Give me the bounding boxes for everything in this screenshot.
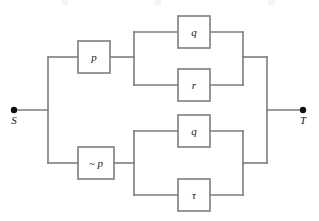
diagram-canvas: p q r ~ p q τ bbox=[0, 0, 319, 221]
block-q-upper[interactable]: q bbox=[178, 16, 210, 48]
source-terminal-label: S bbox=[11, 114, 17, 126]
block-group: p q r ~ p q τ bbox=[78, 16, 210, 211]
block-p-label: p bbox=[90, 51, 97, 63]
terminal-group: S T bbox=[11, 107, 307, 126]
block-not-p-label: ~ p bbox=[89, 157, 104, 169]
block-q-lower-label: q bbox=[191, 125, 197, 137]
sink-terminal-dot[interactable] bbox=[300, 107, 306, 113]
block-not-p[interactable]: ~ p bbox=[78, 147, 114, 179]
block-r-upper[interactable]: r bbox=[178, 69, 210, 101]
source-terminal-dot[interactable] bbox=[11, 107, 17, 113]
block-p[interactable]: p bbox=[78, 41, 110, 73]
wire-group bbox=[14, 32, 303, 195]
network-diagram-figure: p q r ~ p q τ bbox=[0, 0, 319, 221]
block-q-lower[interactable]: q bbox=[178, 115, 210, 147]
sink-terminal-label: T bbox=[300, 114, 307, 126]
block-r-upper-label: r bbox=[192, 79, 197, 91]
block-tau-lower[interactable]: τ bbox=[178, 179, 210, 211]
block-q-upper-label: q bbox=[191, 26, 197, 38]
